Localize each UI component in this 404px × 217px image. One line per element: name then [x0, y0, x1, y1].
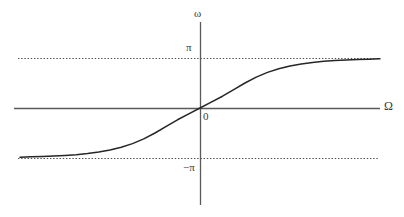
- y-axis-label-omega: ω: [194, 8, 201, 19]
- phase-response-figure: ω Ω π −π 0: [0, 0, 404, 217]
- x-axis-label-capital-omega: Ω: [384, 100, 393, 112]
- plot-canvas: [0, 0, 404, 217]
- origin-label-zero: 0: [203, 111, 209, 122]
- upper-asymptote-label-pi: π: [186, 42, 192, 53]
- lower-asymptote-label-negative-pi: −π: [183, 162, 195, 173]
